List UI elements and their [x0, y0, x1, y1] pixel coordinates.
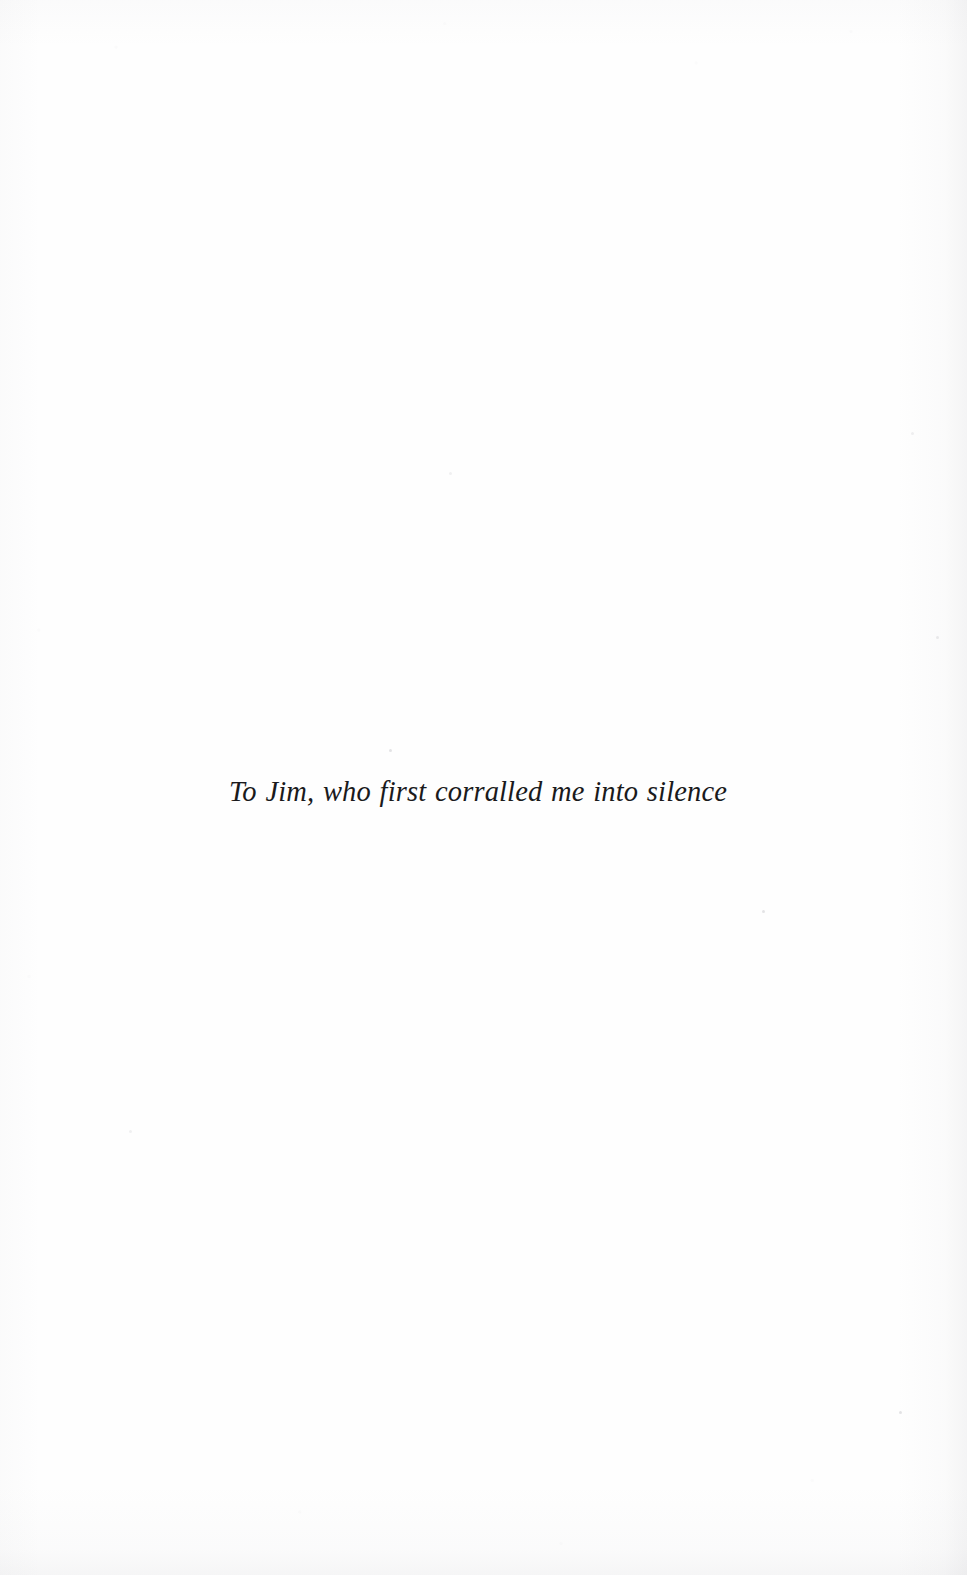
- dedication-block: To Jim, who first corralled me into sile…: [0, 775, 967, 809]
- scan-speck: [899, 1411, 902, 1414]
- scan-speck: [936, 636, 939, 639]
- scan-speck: [129, 1130, 132, 1133]
- dedication-page: To Jim, who first corralled me into sile…: [0, 0, 967, 1575]
- dedication-text: To Jim, who first corralled me into sile…: [229, 775, 727, 809]
- scan-speck: [762, 910, 765, 913]
- scan-speck: [449, 472, 452, 475]
- scan-speck: [389, 749, 392, 752]
- scan-speck: [911, 432, 914, 435]
